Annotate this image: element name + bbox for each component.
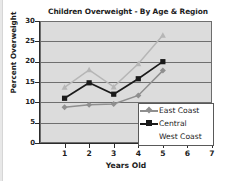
chart-container: Children Overweight - By Age & Region 05…	[0, 0, 233, 181]
legend-item[interactable]: West Coast	[139, 130, 213, 143]
chart-legend: East CoastCentralWest Coast	[138, 103, 214, 146]
legend-item[interactable]: East Coast	[139, 104, 213, 117]
legend-key-marker	[146, 107, 153, 114]
data-point-marker	[86, 102, 92, 108]
series-line	[65, 35, 163, 87]
data-point-marker	[111, 92, 116, 97]
data-point-marker	[111, 101, 117, 107]
data-point-marker	[86, 67, 92, 73]
legend-key-marker	[146, 120, 152, 126]
legend-item[interactable]: Central	[139, 117, 213, 130]
data-point-marker	[136, 76, 141, 81]
legend-key-square-icon	[139, 118, 159, 129]
legend-label: Central	[159, 118, 187, 129]
legend-key-triangle-icon	[139, 131, 159, 142]
legend-key-diamond-icon	[139, 105, 159, 116]
legend-label: East Coast	[159, 105, 199, 116]
data-point-marker	[62, 104, 68, 110]
data-point-marker	[160, 32, 166, 38]
data-point-marker	[160, 59, 165, 64]
data-point-marker	[62, 96, 67, 101]
series-group	[0, 0, 233, 181]
data-point-marker	[87, 80, 92, 85]
legend-label: West Coast	[159, 131, 202, 142]
